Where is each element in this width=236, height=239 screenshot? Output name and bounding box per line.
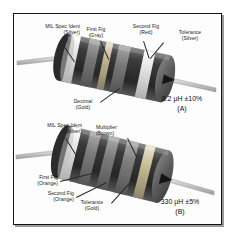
value-text-b: 330 µH ±5% — [142, 197, 218, 207]
inductor-figure-b: MIL Spec Ident (Silver) Multiplier (Brow… — [14, 119, 221, 224]
label-first-fig-a: First Fig (Gray) — [76, 26, 116, 38]
figure-frame: MIL Spec Ident (Silver) First Fig (Gray)… — [13, 13, 222, 225]
label-line2: (Orange) — [16, 180, 58, 186]
value-label: 8.2 µH ±10% — [162, 95, 203, 102]
inductor-figure-a: MIL Spec Ident (Silver) First Fig (Gray)… — [14, 14, 221, 119]
label-line2: (Gold) — [71, 205, 113, 211]
label-multiplier-b: Multiplier (Brown) — [96, 124, 140, 136]
label-line2: (Red) — [124, 29, 168, 35]
label-line2: (Silver) — [169, 35, 211, 41]
label-second-fig-a: Second Fig (Red) — [124, 23, 168, 35]
label-tolerance-b: Tolerance (Gold) — [71, 199, 113, 211]
value-text-a: 8.2 µH ±10% — [144, 94, 220, 104]
designator-label: (A) — [177, 105, 186, 112]
label-line2: (Brown) — [96, 130, 140, 136]
label-line2: (Silver) — [22, 29, 80, 35]
designator-label: (B) — [175, 208, 184, 215]
designator-a: (A) — [144, 104, 220, 114]
label-line2: (Silver) — [24, 128, 82, 134]
label-line2: (Gray) — [76, 32, 116, 38]
label-second-fig-b: Second Fig (Orange) — [28, 190, 74, 202]
label-tolerance-a: Tolerance (Silver) — [169, 29, 211, 41]
label-mil-spec-ident-a: MIL Spec Ident (Silver) — [22, 23, 80, 35]
label-decimal-a: Decimal (Gold) — [64, 98, 102, 110]
label-mil-spec-ident-b: MIL Spec Ident (Silver) — [24, 122, 82, 134]
value-label: 330 µH ±5% — [161, 198, 200, 205]
designator-b: (B) — [142, 207, 218, 217]
label-line2: (Orange) — [28, 196, 74, 202]
label-first-fig-b: First Fig (Orange) — [16, 174, 58, 186]
label-line2: (Gold) — [64, 104, 102, 110]
